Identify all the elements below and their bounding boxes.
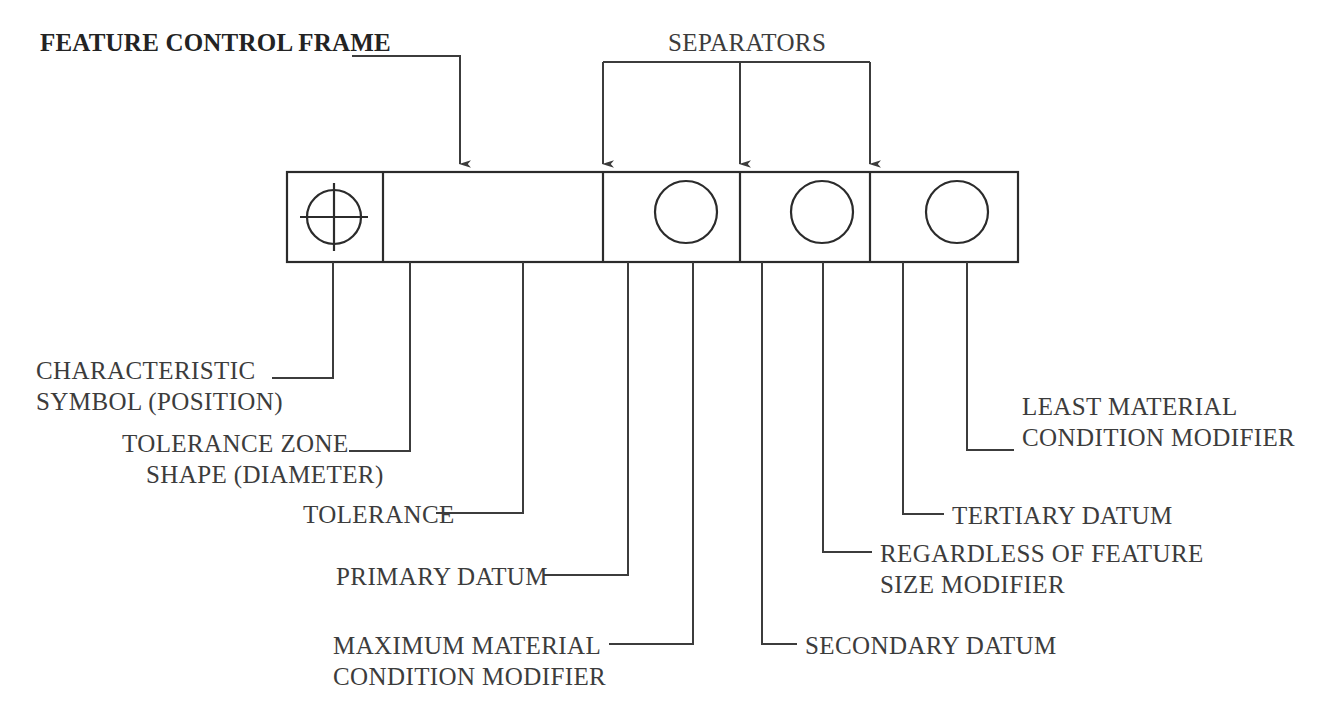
leader-tertiary-datum <box>903 262 944 514</box>
gdt-feature-control-frame-diagram: FEATURE CONTROL FRAME SEPARATORS CHARACT… <box>0 0 1344 718</box>
leader-primary-datum <box>543 262 628 575</box>
leader-feature-control-frame <box>352 56 460 164</box>
diagram-vector-layer <box>0 0 1344 718</box>
leader-mmc-modifier <box>609 262 693 644</box>
leader-separators <box>603 62 870 164</box>
feature-control-frame-box <box>287 172 1018 262</box>
leader-secondary-datum <box>762 262 797 644</box>
leader-rfs-modifier <box>823 262 872 552</box>
leader-tolerance-zone-shape <box>349 262 410 451</box>
leader-lmc-modifier <box>967 262 1014 450</box>
leader-characteristic-symbol <box>272 262 333 378</box>
leader-tolerance <box>436 262 523 513</box>
